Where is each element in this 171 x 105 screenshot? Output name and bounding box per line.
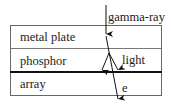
light-label: light xyxy=(122,53,145,67)
light-arrow-left xyxy=(102,53,109,70)
gamma-ray-label: gamma-ray xyxy=(108,10,166,24)
electron-label: e xyxy=(122,81,128,95)
detector-diagram: metal plate phosphor array gamma-ray e l… xyxy=(0,0,171,105)
layer-label-array: array xyxy=(20,77,46,91)
light-arrows xyxy=(102,53,118,70)
layer-label-phosphor: phosphor xyxy=(20,54,67,68)
layer-label-metal-plate: metal plate xyxy=(20,30,76,44)
